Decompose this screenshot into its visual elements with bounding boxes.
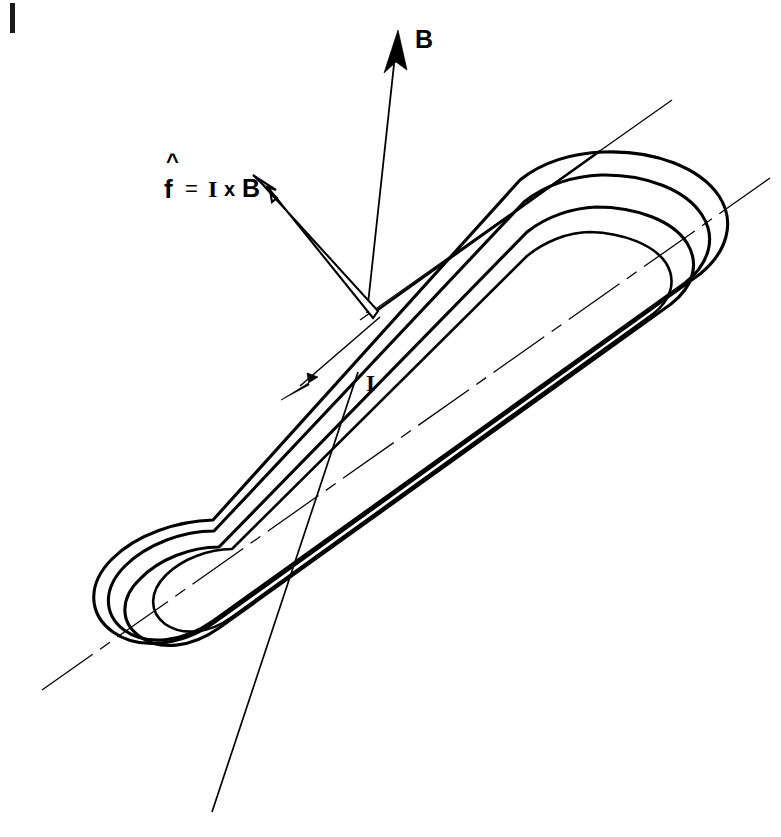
force-vector <box>253 175 378 318</box>
formula-force-equation: ^ f = I x B <box>164 149 260 204</box>
coil-inner-outline <box>153 232 671 632</box>
b-vector-shaft <box>367 46 396 313</box>
physics-diagram-canvas: B I ^ f = I x B <box>0 0 781 837</box>
formula-current-symbol: I <box>208 176 217 202</box>
formula-f-symbol: f <box>164 174 173 204</box>
magnetic-field-vector <box>367 30 407 313</box>
formula-cross-operator: x <box>224 178 235 200</box>
figure-root: B I ^ f = I x B <box>0 0 781 837</box>
formula-field-symbol: B <box>242 174 260 202</box>
formula-hat-accent: ^ <box>166 149 179 174</box>
coil-third-outline <box>125 207 694 645</box>
current-arrowhead <box>281 373 318 400</box>
page-edge-tick <box>10 3 15 33</box>
coil-outer-envelope <box>94 152 728 644</box>
coil-second-outline <box>108 175 709 640</box>
formula-equals: = <box>185 176 198 201</box>
coil-front-winding-seam <box>372 151 600 314</box>
b-vector-arrowhead <box>384 30 407 73</box>
label-current: I <box>366 371 375 396</box>
force-arrow-outline <box>253 175 378 318</box>
label-magnetic-field: B <box>415 25 433 53</box>
